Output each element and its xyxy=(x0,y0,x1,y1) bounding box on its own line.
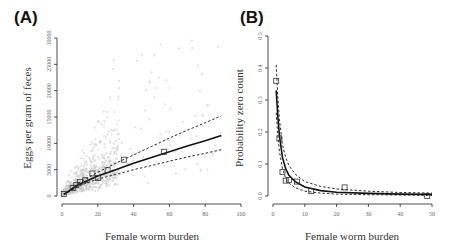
y-tick-label: 0.3 xyxy=(257,96,263,104)
y-tick-label: 0.5 xyxy=(257,32,263,40)
panel-a-y-axis-title: Eggs per gram of feces xyxy=(21,67,33,168)
panel-b-plot: 0.00.10.20.30.40.501020304050 xyxy=(257,32,435,217)
panel-a-plot: 0500010000150002000025000300000204060801… xyxy=(46,31,246,218)
x-tick-label: 50 xyxy=(429,211,435,217)
panel-a-x-axis-title: Female worm burden xyxy=(105,230,200,242)
y-tick-label: 0.2 xyxy=(257,128,263,136)
x-tick-label: 100 xyxy=(237,211,246,217)
y-tick-label: 5000 xyxy=(46,164,52,176)
ci-line xyxy=(276,65,432,193)
x-tick-label: 40 xyxy=(131,211,137,217)
x-tick-label: 40 xyxy=(397,211,403,217)
data-square xyxy=(274,78,279,83)
x-tick-label: 60 xyxy=(166,211,172,217)
x-tick-label: 0 xyxy=(272,211,275,217)
panel-b-x-axis-title: Female worm burden xyxy=(305,230,400,242)
x-tick-label: 10 xyxy=(302,211,308,217)
y-tick-label: 0 xyxy=(46,195,52,198)
y-tick-label: 30000 xyxy=(46,31,52,46)
y-tick-label: 25000 xyxy=(46,57,52,72)
x-tick-label: 0 xyxy=(61,211,64,217)
chart-canvas: 0500010000150002000025000300000204060801… xyxy=(0,0,449,251)
x-tick-label: 20 xyxy=(95,211,101,217)
panel-b-y-axis-title: Probability zero count xyxy=(233,69,245,167)
y-tick-label: 20000 xyxy=(46,83,52,98)
y-tick-label: 0.0 xyxy=(257,192,263,200)
data-square xyxy=(280,170,285,175)
x-tick-label: 20 xyxy=(334,211,340,217)
y-tick-label: 15000 xyxy=(46,110,52,125)
y-tick-label: 0.1 xyxy=(257,160,263,168)
y-tick-label: 10000 xyxy=(46,136,52,151)
raw-points xyxy=(61,39,222,196)
x-tick-label: 30 xyxy=(365,211,371,217)
x-tick-label: 80 xyxy=(202,211,208,217)
y-tick-label: 0.4 xyxy=(257,64,263,72)
axes xyxy=(265,36,432,207)
